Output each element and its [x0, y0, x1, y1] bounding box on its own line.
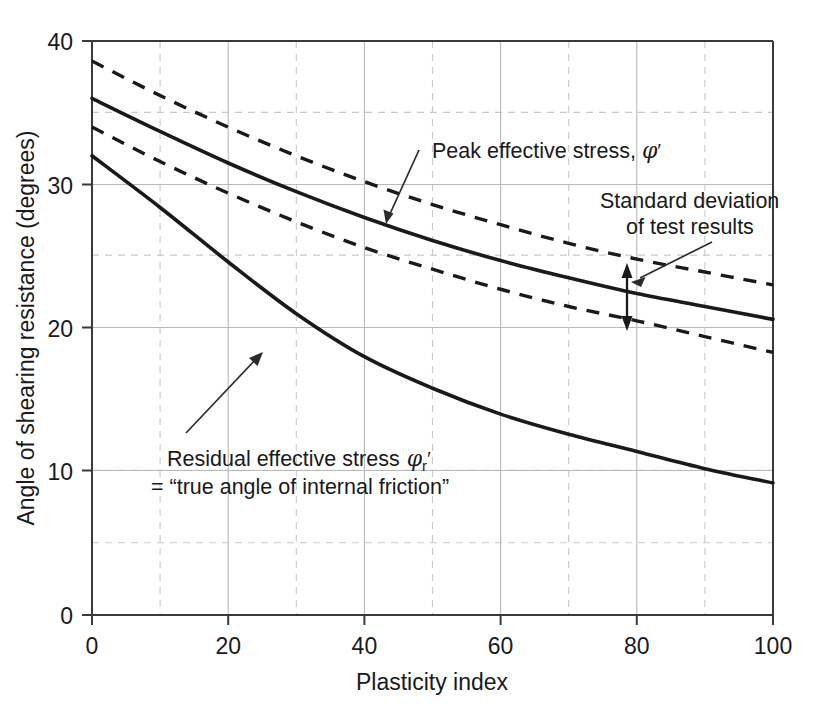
- stddev-annotation-line1: Standard deviation: [600, 189, 779, 213]
- x-axis-title: Plasticity index: [356, 669, 509, 695]
- y-tick-label-10: 10: [47, 459, 73, 485]
- residual-annotation-line1: Residual effective stressφr′: [167, 446, 431, 474]
- y-tick-label-30: 30: [47, 173, 73, 199]
- chart-background: [0, 0, 816, 704]
- x-tick-label-100: 100: [754, 633, 792, 659]
- x-tick-label-40: 40: [352, 633, 378, 659]
- stddev-annotation-line2: of test results: [626, 215, 754, 239]
- y-tick-label-40: 40: [47, 29, 73, 55]
- y-tick-label-20: 20: [47, 316, 73, 342]
- x-tick-label-80: 80: [624, 633, 650, 659]
- x-tick-label-60: 60: [488, 633, 514, 659]
- x-tick-label-20: 20: [215, 633, 241, 659]
- y-axis-title: Angle of shearing resistance (degrees): [13, 130, 39, 525]
- y-tick-label-0: 0: [60, 603, 73, 629]
- chart-svg: 40 30 20 10 0 0 20 40 60 80 100 Plastici…: [0, 0, 816, 704]
- residual-annotation-line2: = “true angle of internal friction”: [151, 475, 449, 499]
- peak-annotation-label: Peak effective stress,φ′: [432, 138, 662, 163]
- x-tick-label-0: 0: [86, 633, 99, 659]
- figure-container: 40 30 20 10 0 0 20 40 60 80 100 Plastici…: [0, 0, 816, 704]
